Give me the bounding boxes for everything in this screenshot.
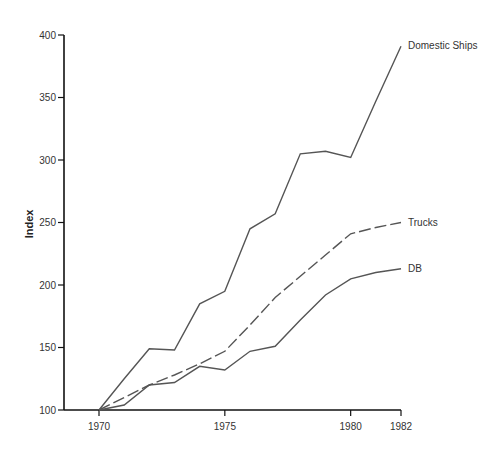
y-tick-label: 100 — [39, 405, 56, 416]
x-tick-label: 1970 — [88, 421, 111, 432]
y-tick-label: 150 — [39, 342, 56, 353]
label-domestic-ships: Domestic Ships — [408, 40, 477, 51]
series-domestic-ships — [99, 46, 401, 410]
y-tick-label: 300 — [39, 155, 56, 166]
label-trucks: Trucks — [408, 217, 438, 228]
series-lines — [99, 46, 401, 410]
x-tick-label: 1982 — [390, 421, 413, 432]
y-tick-label: 350 — [39, 92, 56, 103]
y-tick-label: 400 — [39, 30, 56, 41]
y-axis-label: Index — [23, 209, 35, 239]
series-trucks — [99, 223, 401, 411]
label-db: DB — [408, 263, 422, 274]
axes: 1001502002503003504001970197519801982 — [39, 30, 412, 433]
x-tick-label: 1980 — [340, 421, 363, 432]
line-chart: 1001502002503003504001970197519801982 In… — [0, 0, 493, 456]
y-tick-label: 200 — [39, 280, 56, 291]
x-tick-label: 1975 — [214, 421, 237, 432]
y-tick-label: 250 — [39, 217, 56, 228]
series-db — [99, 269, 401, 410]
